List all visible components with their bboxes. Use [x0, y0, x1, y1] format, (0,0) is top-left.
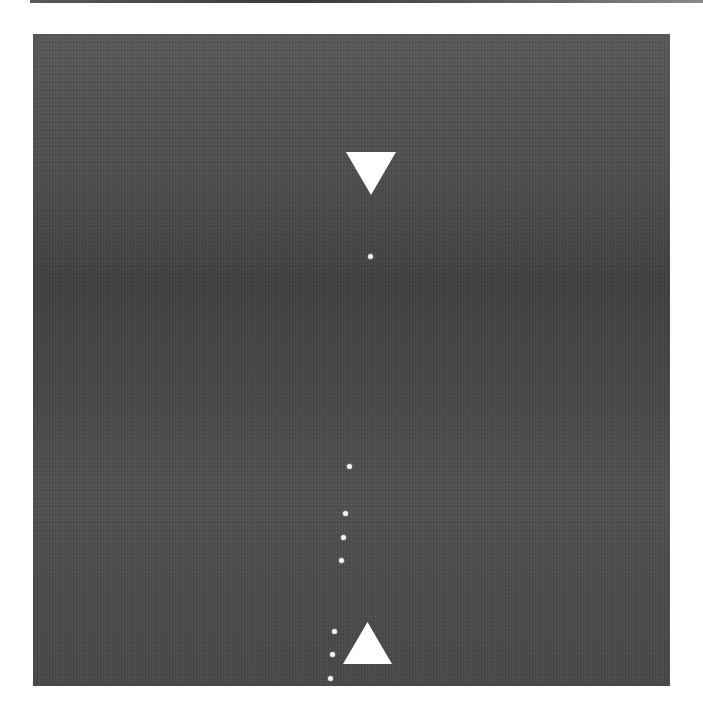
dot-marker	[343, 511, 348, 516]
dot-marker	[347, 464, 352, 469]
dot-marker	[330, 652, 335, 657]
dot-marker	[368, 254, 373, 259]
dot-marker	[328, 676, 333, 681]
dot-marker	[332, 629, 337, 634]
top-edge-strip	[30, 0, 703, 3]
micrograph-panel	[33, 34, 670, 686]
image-noise-texture	[33, 34, 670, 686]
dot-marker	[341, 535, 346, 540]
dot-marker	[339, 558, 344, 563]
arrowhead-down-icon	[346, 152, 396, 195]
arrowhead-up-icon	[343, 622, 392, 664]
